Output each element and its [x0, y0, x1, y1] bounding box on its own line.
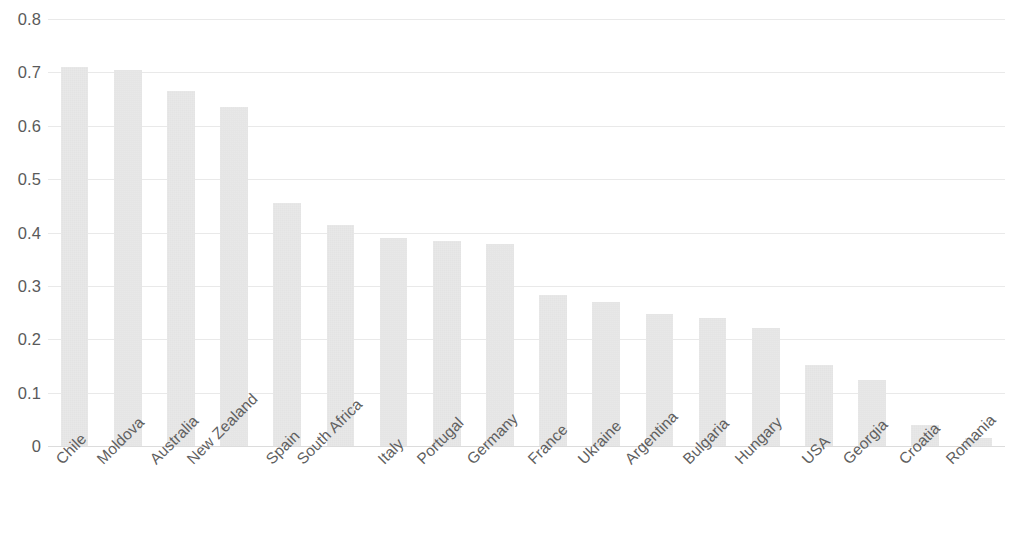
bar: [380, 238, 408, 446]
bar: [539, 295, 567, 446]
y-tick-label: 0.5: [0, 171, 41, 188]
y-tick-label: 0.8: [0, 11, 41, 28]
y-tick-label: 0.4: [0, 224, 41, 241]
x-axis: ChileMoldovaAustraliaNew ZealandSpainSou…: [48, 450, 1005, 544]
y-axis: 0.80.70.60.50.40.30.20.10: [0, 0, 41, 544]
bar: [61, 67, 89, 446]
y-tick-label: 0: [0, 438, 41, 455]
plot-area: [48, 19, 1005, 446]
y-tick-label: 0.7: [0, 64, 41, 81]
bar: [273, 203, 301, 446]
bar-chart: 0.80.70.60.50.40.30.20.10 ChileMoldovaAu…: [0, 0, 1010, 544]
bar: [167, 91, 195, 446]
gridline: [48, 72, 1005, 73]
y-tick-label: 0.6: [0, 118, 41, 135]
y-tick-label: 0.2: [0, 331, 41, 348]
y-tick-label: 0.3: [0, 278, 41, 295]
gridline: [48, 19, 1005, 20]
y-tick-label: 0.1: [0, 384, 41, 401]
bar: [114, 70, 142, 446]
